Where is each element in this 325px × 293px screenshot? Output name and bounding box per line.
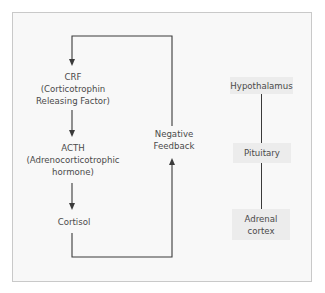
acth-label: ACTH (Adrenocorticotrophic hormone) bbox=[26, 142, 119, 178]
cortisol-title: Cortisol bbox=[58, 216, 91, 228]
arrowhead-icon bbox=[69, 130, 75, 137]
hypothalamus-box: Hypothalamus bbox=[230, 77, 293, 94]
crf-label: CRF (Corticotrophin Releasing Factor) bbox=[36, 71, 110, 107]
crf-subtitle-1: (Corticotrophin bbox=[36, 83, 110, 95]
pituitary-box: Pituitary bbox=[233, 143, 291, 163]
adrenal-label-2: cortex bbox=[247, 225, 274, 237]
acth-subtitle-1: (Adrenocorticotrophic bbox=[26, 154, 119, 166]
crf-title: CRF bbox=[36, 71, 110, 83]
adrenal-cortex-box: Adrenal cortex bbox=[232, 209, 290, 240]
adrenal-label-1: Adrenal bbox=[245, 213, 278, 225]
acth-title: ACTH bbox=[26, 142, 119, 154]
negative-feedback-label: Negative Feedback bbox=[151, 126, 198, 154]
arrowhead-icon bbox=[169, 158, 175, 165]
acth-subtitle-2: hormone) bbox=[26, 166, 119, 178]
arrowhead-icon bbox=[69, 203, 75, 210]
arrowhead-icon bbox=[69, 59, 75, 66]
crf-subtitle-2: Releasing Factor) bbox=[36, 95, 110, 107]
feedback-line-1: Negative bbox=[154, 128, 195, 140]
hypothalamus-label: Hypothalamus bbox=[230, 80, 292, 92]
feedback-line-2: Feedback bbox=[154, 140, 195, 152]
pituitary-label: Pituitary bbox=[244, 147, 280, 159]
cortisol-label: Cortisol bbox=[58, 216, 91, 228]
